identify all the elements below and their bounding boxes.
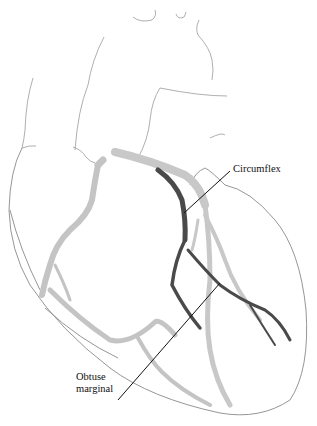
great-vessels-outline [22,10,227,163]
obtuse-marginal-label: Obtuse marginal [76,371,113,395]
heart-illustration [0,0,317,426]
obtuse-marginal-leader-line [118,283,220,400]
circumflex-label: Circumflex [233,163,281,175]
heart-outline [9,148,307,415]
heart-diagram: Circumflex Obtuse marginal [0,0,317,426]
right-coronary-artery [42,160,210,405]
obtuse-marginal-label-line-1: Obtuse [76,371,113,383]
left-anterior-descending [115,152,260,405]
obtuse-marginal-label-line-2: marginal [76,383,113,395]
